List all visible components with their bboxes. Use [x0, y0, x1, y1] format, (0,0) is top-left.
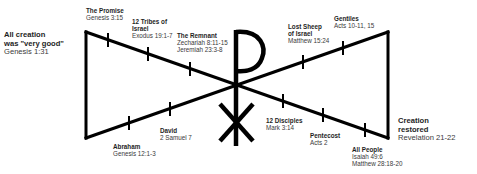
- event-ref: Isaiah 49:6: [352, 153, 402, 160]
- event-title: 12 Disciples: [266, 117, 302, 124]
- chi-rho-bowl: [236, 32, 263, 71]
- label-abraham: Abraham Genesis 12:1-3: [113, 143, 156, 157]
- event-title: Abraham: [113, 143, 156, 150]
- event-ref: Genesis 3:15: [86, 14, 124, 21]
- label-remnant: The Remnant Zechariah 8:11-15 Jeremiah 2…: [177, 32, 228, 54]
- event-ref: Genesis 12:1-3: [113, 150, 156, 157]
- event-ref: Matthew 15:24: [288, 37, 329, 44]
- label-pentecost: Pentecost Acts 2: [310, 132, 340, 146]
- event-title: of Israel: [288, 30, 329, 37]
- label-all-people: All People Isaiah 49:6 Matthew 28:18-20: [352, 146, 402, 168]
- label-gentiles: Gentiles Acts 10-11, 15: [334, 15, 374, 29]
- event-title: The Remnant: [177, 32, 228, 39]
- event-title: David: [160, 127, 192, 134]
- event-title: Lost Sheep: [288, 23, 329, 30]
- event-ref: Acts 10-11, 15: [334, 22, 374, 29]
- label-twelve-disciples: 12 Disciples Mark 3:14: [266, 117, 302, 131]
- event-ref: Genesis 1:31: [4, 48, 64, 57]
- label-promise: The Promise Genesis 3:15: [86, 7, 124, 21]
- event-title: The Promise: [86, 7, 124, 14]
- event-title: Pentecost: [310, 132, 340, 139]
- event-ref: 2 Samuel 7: [160, 134, 192, 141]
- label-creation-restored: Creation restored Revelation 21-22: [398, 117, 455, 143]
- event-title: Israel: [132, 25, 173, 32]
- event-ref: Exodus 19:1-7: [132, 32, 173, 39]
- event-title: 12 Tribes of: [132, 18, 173, 25]
- event-ref: Revelation 21-22: [398, 134, 455, 143]
- event-title: All People: [352, 146, 402, 153]
- event-ref: Jeremiah 23:3-8: [177, 46, 228, 53]
- storyline-diagram: [0, 0, 477, 174]
- event-title: Gentiles: [334, 15, 374, 22]
- label-creation: All creation was "very good" Genesis 1:3…: [4, 31, 64, 57]
- label-david: David 2 Samuel 7: [160, 127, 192, 141]
- label-twelve-tribes: 12 Tribes of Israel Exodus 19:1-7: [132, 18, 173, 40]
- event-ref: Acts 2: [310, 139, 340, 146]
- label-lost-sheep: Lost Sheep of Israel Matthew 15:24: [288, 23, 329, 45]
- event-ref: Zechariah 8:11-15: [177, 39, 228, 46]
- event-ref: Mark 3:14: [266, 124, 302, 131]
- event-ref: Matthew 28:18-20: [352, 160, 402, 167]
